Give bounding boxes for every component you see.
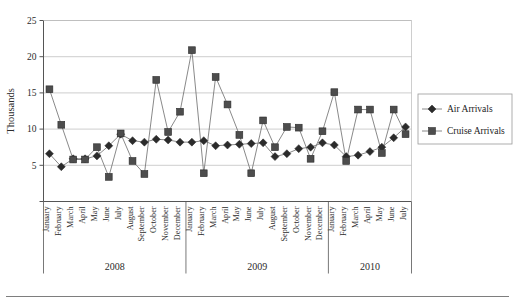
data-point xyxy=(402,131,409,138)
data-point xyxy=(46,86,53,93)
data-point xyxy=(272,144,279,151)
data-point xyxy=(94,144,101,151)
x-axis-month-label: October xyxy=(292,206,301,233)
ytick-label-15: 15 xyxy=(27,88,37,98)
ytick-label-5: 5 xyxy=(32,161,37,171)
x-axis-month-label: June xyxy=(387,206,396,221)
x-axis-month-label: August xyxy=(268,206,277,230)
data-point xyxy=(70,156,77,163)
x-axis-month-label: September xyxy=(137,206,146,241)
arrivals-line-chart: 510152025ThousandsJanuaryFebruaryMarchAp… xyxy=(0,0,515,308)
legend-item-label: Cruise Arrivals xyxy=(447,126,505,136)
x-axis-month-label: March xyxy=(209,207,218,228)
data-point xyxy=(117,130,124,137)
x-axis-month-label: May xyxy=(375,206,384,222)
x-axis-month-label: June xyxy=(244,206,253,221)
data-point xyxy=(212,74,219,81)
x-axis-month-label: July xyxy=(256,206,265,221)
ytick-label-20: 20 xyxy=(27,52,37,62)
x-axis-month-label: March xyxy=(351,206,360,227)
data-point xyxy=(390,106,397,113)
data-point xyxy=(355,106,362,113)
x-axis-month-label: February xyxy=(339,206,348,236)
data-point xyxy=(58,121,65,128)
x-axis-month-label: June xyxy=(102,206,111,221)
x-axis-month-label: February xyxy=(54,206,63,236)
data-point xyxy=(105,173,112,180)
x-axis-month-label: February xyxy=(197,206,206,236)
x-axis-month-label: December xyxy=(315,206,324,240)
x-axis-month-label: November xyxy=(304,206,313,241)
x-axis-month-label: May xyxy=(232,206,241,222)
data-point xyxy=(153,76,160,83)
legend-panel xyxy=(418,94,512,144)
data-point xyxy=(248,170,255,177)
data-point xyxy=(260,117,267,124)
data-point xyxy=(367,106,374,113)
x-axis-month-label: December xyxy=(173,206,182,240)
data-point xyxy=(307,155,314,162)
x-axis-month-label: May xyxy=(90,206,99,222)
data-point xyxy=(82,156,89,163)
ytick-label-25: 25 xyxy=(27,16,37,26)
data-point xyxy=(129,158,136,165)
x-axis-month-label: October xyxy=(149,206,158,233)
data-point xyxy=(188,47,195,54)
data-point xyxy=(295,124,302,131)
legend-marker-square-icon xyxy=(429,128,436,135)
x-axis-month-label: August xyxy=(126,206,135,230)
data-point xyxy=(331,89,338,96)
data-point xyxy=(165,129,172,136)
ytick-label-10: 10 xyxy=(27,124,37,134)
data-point xyxy=(236,131,243,138)
data-point xyxy=(283,124,290,131)
y-axis-title: Thousands xyxy=(5,88,16,134)
x-axis-year-label: 2010 xyxy=(360,261,380,272)
data-point xyxy=(319,128,326,135)
x-axis-year-label: 2009 xyxy=(247,261,267,272)
x-axis-month-label: July xyxy=(114,206,123,221)
x-axis-month-label: September xyxy=(280,206,289,241)
legend-item-label: Air Arrivals xyxy=(447,104,493,114)
x-axis-month-label: April xyxy=(78,206,87,224)
data-point xyxy=(378,150,385,157)
data-point xyxy=(224,101,231,108)
data-point xyxy=(141,171,148,178)
data-point xyxy=(200,170,207,177)
data-point xyxy=(343,158,350,165)
x-axis-month-label: March xyxy=(66,207,75,228)
data-point xyxy=(177,108,184,115)
x-axis-month-label: July xyxy=(399,206,408,221)
x-axis-month-label: November xyxy=(161,206,170,241)
x-axis-year-label: 2008 xyxy=(105,261,125,272)
x-axis-month-label: April xyxy=(221,206,230,224)
x-axis-month-label: April xyxy=(363,206,372,224)
chart-container: 510152025ThousandsJanuaryFebruaryMarchAp… xyxy=(0,0,515,308)
